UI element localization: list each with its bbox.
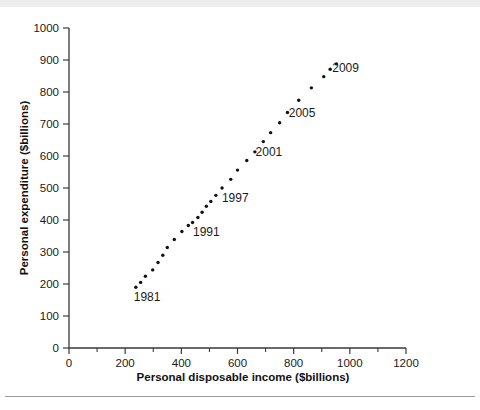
data-point [245,159,248,162]
axis-spine [69,28,406,348]
data-point [196,216,199,219]
data-point [144,275,147,278]
y-tick-label: 600 [40,150,59,162]
year-label: 1981 [134,290,161,304]
scatter-chart: 020040060080010001200 010020030040050060… [0,0,480,410]
data-point [200,211,203,214]
data-point [205,205,208,208]
data-point [161,254,164,257]
y-tick-label: 900 [40,54,59,66]
data-point [214,194,217,197]
figure-bottom-rule [5,396,475,397]
year-label: 2005 [289,106,316,120]
data-point [278,121,281,124]
data-point [180,230,183,233]
y-tick-label: 400 [40,214,59,226]
year-annotations: 198119911997200120052009 [134,61,360,304]
y-tick-label: 1000 [33,22,59,34]
x-tick-label: 0 [66,357,72,369]
year-label: 1997 [222,191,249,205]
data-point [297,99,300,102]
data-point [187,224,190,227]
x-tick-label: 800 [284,357,303,369]
y-axis-ticks: 01002003004005006007008009001000 [33,22,69,354]
data-point [191,221,194,224]
y-tick-label: 700 [40,118,59,130]
x-tick-label: 1000 [337,357,363,369]
year-label: 1991 [193,225,220,239]
data-point [173,238,176,241]
x-axis-title: Personal disposable income ($billions) [137,371,350,383]
y-tick-label: 300 [40,246,59,258]
y-tick-label: 200 [40,278,59,290]
y-tick-label: 800 [40,86,59,98]
y-tick-label: 0 [53,342,59,354]
data-point [139,281,142,284]
data-point [262,140,265,143]
x-tick-label: 200 [116,357,135,369]
data-point [236,168,239,171]
y-tick-label: 100 [40,310,59,322]
y-tick-label: 500 [40,182,59,194]
x-tick-label: 400 [172,357,191,369]
data-points [134,62,338,289]
chart-axes [69,28,406,348]
data-point [229,178,232,181]
y-axis-title: Personal expenditure ($billions) [18,101,30,276]
x-axis-ticks: 020040060080010001200 [66,348,419,369]
data-point [322,75,325,78]
figure-page: 020040060080010001200 010020030040050060… [0,0,480,410]
data-point [209,200,212,203]
data-point [166,246,169,249]
data-point [220,186,223,189]
year-label: 2001 [256,145,283,159]
data-point [310,86,313,89]
x-tick-label: 600 [228,357,247,369]
data-point [156,261,159,264]
year-label: 2009 [332,61,359,75]
x-tick-label: 1200 [393,357,419,369]
data-point [151,268,154,271]
data-point [134,286,137,289]
data-point [269,131,272,134]
